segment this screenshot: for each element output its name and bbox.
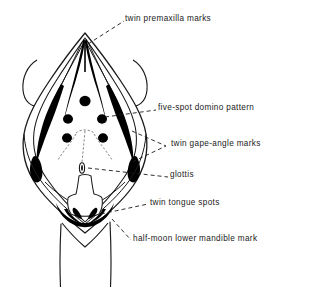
domino-spot-top: [79, 96, 90, 106]
glottis: [79, 163, 84, 173]
domino-spot-low-left: [62, 133, 72, 142]
gape-anatomy-diagram: [0, 0, 315, 287]
domino-spot-mid-left: [63, 114, 73, 123]
label-half-moon-lower-mandible-mark: half-moon lower mandible mark: [133, 235, 257, 243]
label-twin-gape-angle-marks: twin gape-angle marks: [171, 140, 261, 148]
domino-spot-mid-right: [97, 114, 107, 123]
label-twin-premaxilla-marks: twin premaxilla marks: [125, 15, 211, 23]
figure-page: twin premaxilla marks five-spot domino p…: [0, 0, 315, 287]
label-glottis: glottis: [170, 171, 194, 179]
leader-twin-premaxilla-marks: [88, 21, 124, 44]
label-twin-tongue-spots: twin tongue spots: [150, 199, 220, 207]
leader-half-moon-lower-mandible-mark: [112, 219, 131, 240]
domino-spot-low-right: [98, 133, 108, 142]
label-five-spot-domino-pattern: five-spot domino pattern: [158, 104, 254, 112]
